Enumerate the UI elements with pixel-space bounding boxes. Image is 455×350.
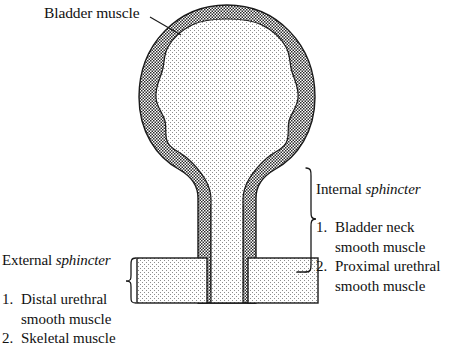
list-item-line1: Skeletal muscle <box>21 329 116 349</box>
list-item-number: 2. <box>316 257 335 277</box>
list-item: 2. Proximal urethral smooth muscle <box>316 257 455 296</box>
list-item: 1. Distal urethral smooth muscle <box>2 290 152 329</box>
list-item-line1: Proximal urethral <box>335 257 440 277</box>
internal-sphincter-word2: sphincter <box>366 181 421 197</box>
internal-sphincter-word1: Internal <box>316 181 362 197</box>
list-item-line2: smooth muscle <box>335 238 425 258</box>
list-item-number: 1. <box>316 218 335 238</box>
external-sphincter-list: 1. Distal urethral smooth muscle 2. Skel… <box>2 290 152 349</box>
list-item-line2: smooth muscle <box>335 277 440 297</box>
external-sphincter-word1: External <box>2 252 52 268</box>
list-item-line2: smooth muscle <box>21 310 111 330</box>
list-item-number: 1. <box>2 290 21 310</box>
internal-sphincter-list: 1. Bladder neck smooth muscle 2. Proxima… <box>316 218 455 296</box>
list-item-line1: Distal urethral <box>21 290 111 310</box>
list-item: 2. Skeletal muscle <box>2 329 152 349</box>
list-item-number: 2. <box>2 329 21 349</box>
external-sphincter-right-box <box>248 258 318 303</box>
internal-sphincter-brace <box>297 168 316 272</box>
anatomical-diagram: Bladder muscle Internal sphincter Extern… <box>0 0 455 350</box>
external-sphincter-label: External sphincter <box>2 252 111 270</box>
bladder-muscle-label: Bladder muscle <box>44 4 139 22</box>
urethral-lumen <box>211 205 243 303</box>
list-item-line1: Bladder neck <box>335 218 425 238</box>
external-sphincter-word2: sphincter <box>56 252 111 268</box>
internal-sphincter-label: Internal sphincter <box>316 181 420 199</box>
list-item: 1. Bladder neck smooth muscle <box>316 218 455 257</box>
